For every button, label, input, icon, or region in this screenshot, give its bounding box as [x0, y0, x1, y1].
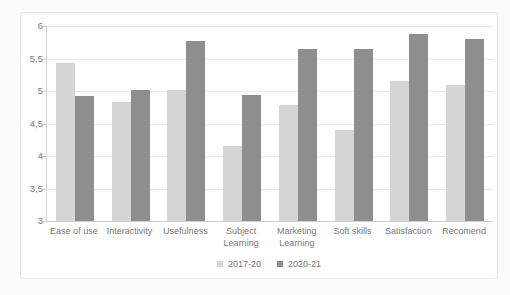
y-tick-mark: [42, 26, 46, 27]
bar-groups: [47, 26, 493, 221]
bar-2020-21-soft-skills: [354, 49, 373, 221]
y-tick-label: 5: [21, 86, 43, 96]
bar-group-subject-learning: [214, 26, 270, 221]
bar-2017-20-interactivity: [112, 102, 131, 221]
bar-2020-21-subject-learning: [242, 95, 261, 221]
legend-label: 2017-20: [228, 259, 261, 269]
plot-area: [46, 26, 493, 222]
bar-group-interactivity: [103, 26, 159, 221]
y-tick-label: 6: [21, 21, 43, 31]
x-axis-label-marketing-learning: Marketing Learning: [269, 226, 325, 249]
bar-2020-21-marketing-learning: [298, 49, 317, 221]
y-tick-label: 4,5: [21, 119, 43, 129]
x-axis-label-usefulness: Usefulness: [158, 226, 214, 249]
y-tick-mark: [42, 156, 46, 157]
y-tick-label: 4: [21, 151, 43, 161]
bar-2020-21-usefulness: [186, 41, 205, 221]
bar-chart: 65,554,543,53 Ease of useInteractivityUs…: [20, 12, 498, 279]
x-axis-labels: Ease of useInteractivityUsefulnessSubjec…: [46, 226, 492, 249]
legend-item-2017-20: 2017-20: [217, 259, 261, 269]
y-tick-mark: [42, 59, 46, 60]
x-axis-label-satisfaction: Satisfaction: [381, 226, 437, 249]
bar-group-ease-of-use: [47, 26, 103, 221]
y-tick-label: 5,5: [21, 54, 43, 64]
y-tick-mark: [42, 91, 46, 92]
y-tick-mark: [42, 189, 46, 190]
bar-2017-20-usefulness: [167, 90, 186, 221]
y-tick-mark: [42, 221, 46, 222]
bar-2017-20-subject-learning: [223, 146, 242, 221]
bar-group-usefulness: [159, 26, 215, 221]
x-axis-label-soft-skills: Soft skills: [325, 226, 381, 249]
bar-2020-21-ease-of-use: [75, 96, 94, 221]
page: 65,554,543,53 Ease of useInteractivityUs…: [0, 0, 510, 295]
bar-group-soft-skills: [326, 26, 382, 221]
bar-2020-21-satisfaction: [409, 34, 428, 221]
legend-label: 2020-21: [288, 259, 321, 269]
y-tick-label: 3,5: [21, 184, 43, 194]
legend: 2017-202020-21: [46, 259, 492, 269]
bar-group-satisfaction: [382, 26, 438, 221]
bar-2017-20-ease-of-use: [56, 63, 75, 221]
bar-2017-20-soft-skills: [335, 130, 354, 221]
bar-2017-20-satisfaction: [390, 81, 409, 221]
bar-2017-20-marketing-learning: [279, 105, 298, 221]
bar-group-recomend: [437, 26, 493, 221]
x-axis-label-interactivity: Interactivity: [102, 226, 158, 249]
x-axis-label-subject-learning: Subject Learning: [213, 226, 269, 249]
legend-item-2020-21: 2020-21: [277, 259, 321, 269]
legend-swatch-icon: [217, 261, 223, 267]
y-tick-mark: [42, 124, 46, 125]
legend-swatch-icon: [277, 261, 283, 267]
x-axis-label-recomend: Recomend: [436, 226, 492, 249]
bar-2020-21-interactivity: [131, 90, 150, 221]
bar-group-marketing-learning: [270, 26, 326, 221]
bar-2017-20-recomend: [446, 85, 465, 221]
y-tick-label: 3: [21, 216, 43, 226]
x-axis-label-ease-of-use: Ease of use: [46, 226, 102, 249]
bar-2020-21-recomend: [465, 39, 484, 221]
